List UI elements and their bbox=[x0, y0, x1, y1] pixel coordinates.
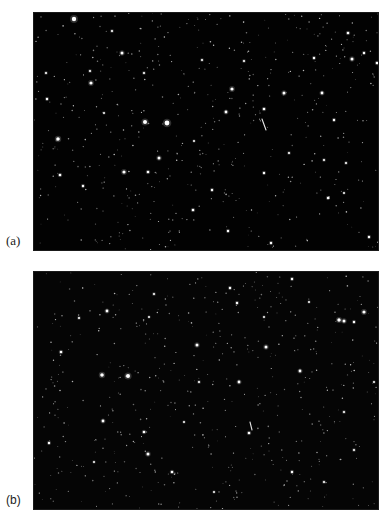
star bbox=[196, 344, 199, 347]
star bbox=[353, 321, 355, 323]
star bbox=[122, 170, 125, 173]
star bbox=[93, 461, 95, 463]
star bbox=[198, 381, 200, 383]
star bbox=[82, 185, 84, 187]
star bbox=[89, 81, 92, 84]
star bbox=[111, 30, 113, 32]
star bbox=[236, 302, 238, 304]
star bbox=[270, 242, 272, 244]
star bbox=[343, 411, 345, 413]
star bbox=[143, 120, 147, 124]
star bbox=[165, 121, 170, 126]
star bbox=[147, 453, 150, 456]
panel-label-a: (a) bbox=[6, 233, 20, 249]
star bbox=[351, 58, 354, 61]
star bbox=[263, 316, 265, 318]
star bbox=[230, 87, 233, 90]
star bbox=[333, 119, 335, 121]
star bbox=[291, 278, 293, 280]
star bbox=[106, 310, 109, 313]
star bbox=[78, 317, 80, 319]
star bbox=[171, 471, 174, 474]
star bbox=[201, 59, 203, 61]
star bbox=[345, 162, 347, 164]
star bbox=[211, 189, 213, 191]
star bbox=[343, 320, 346, 323]
star bbox=[192, 209, 195, 212]
star bbox=[248, 432, 251, 435]
star bbox=[213, 491, 215, 493]
star bbox=[229, 287, 231, 289]
star bbox=[368, 236, 370, 238]
star bbox=[48, 442, 50, 444]
star bbox=[299, 370, 302, 373]
star bbox=[225, 111, 228, 114]
star bbox=[308, 301, 310, 303]
star bbox=[100, 373, 104, 377]
star-field-photo-b bbox=[34, 272, 378, 509]
star bbox=[143, 431, 146, 434]
star bbox=[147, 171, 150, 174]
star bbox=[227, 230, 229, 232]
star bbox=[291, 471, 293, 473]
star bbox=[121, 52, 124, 55]
star bbox=[56, 137, 60, 141]
star bbox=[158, 157, 161, 160]
star bbox=[243, 60, 245, 62]
star bbox=[193, 140, 195, 142]
star bbox=[103, 112, 105, 114]
star bbox=[153, 293, 155, 295]
star bbox=[327, 197, 329, 199]
star-field-b-canvas bbox=[34, 272, 378, 509]
star bbox=[143, 72, 145, 74]
star bbox=[46, 98, 48, 100]
star bbox=[343, 192, 345, 194]
star bbox=[238, 381, 241, 384]
star bbox=[45, 72, 47, 74]
star bbox=[347, 32, 350, 35]
star-field-photo-a bbox=[34, 13, 378, 250]
star bbox=[321, 92, 324, 95]
star bbox=[59, 174, 62, 177]
star bbox=[148, 316, 150, 318]
star bbox=[72, 17, 76, 21]
star bbox=[373, 381, 375, 383]
star bbox=[323, 159, 325, 161]
star bbox=[323, 481, 325, 483]
star bbox=[263, 172, 265, 174]
star bbox=[283, 92, 286, 95]
moving-object-streak bbox=[250, 422, 252, 430]
star bbox=[89, 70, 91, 72]
star bbox=[183, 421, 185, 423]
star bbox=[362, 310, 365, 313]
star bbox=[337, 318, 340, 321]
star bbox=[313, 57, 315, 59]
star bbox=[363, 52, 365, 54]
star bbox=[288, 152, 290, 154]
star bbox=[265, 346, 268, 349]
star bbox=[60, 351, 63, 354]
panel-label-b: (b) bbox=[6, 493, 21, 507]
moving-object-streak bbox=[262, 119, 266, 130]
star-field-a-canvas bbox=[34, 13, 378, 250]
star bbox=[102, 420, 105, 423]
star bbox=[263, 108, 266, 111]
star bbox=[353, 449, 355, 451]
star bbox=[126, 374, 130, 378]
